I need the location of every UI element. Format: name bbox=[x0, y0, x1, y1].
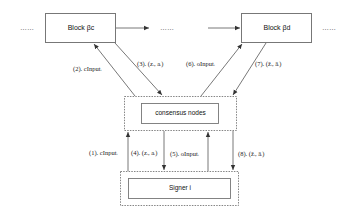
edge-2-label: (2). cInputᵢ bbox=[73, 66, 102, 73]
chain-ellipsis-right: …… bbox=[322, 24, 336, 31]
edge-3-label: (3). (zᵢ, aᵢ) bbox=[137, 61, 163, 68]
consensus-label: consensus nodes bbox=[142, 110, 219, 117]
signer-label: Signer i bbox=[129, 185, 231, 192]
edge-6-label: (6). oInputᵢ bbox=[186, 61, 215, 68]
edge-3-arrow bbox=[115, 43, 162, 95]
edge-8-label: (8). (ẑᵢ, âᵢ) bbox=[238, 151, 264, 158]
block-d-label: Block βd bbox=[242, 24, 312, 31]
edge-7-arrow bbox=[233, 43, 266, 95]
edge-7-label: (7). (ẑᵢ, âᵢ) bbox=[255, 61, 281, 68]
edge-6-arrow bbox=[201, 44, 242, 96]
edge-5-label: (5). oInputᵢ bbox=[170, 151, 199, 158]
chain-ellipsis-middle: …… bbox=[160, 24, 174, 31]
edge-4-label: (4). (zᵢ, aᵢ) bbox=[131, 150, 157, 157]
block-c-label: Block βc bbox=[46, 24, 116, 31]
diagram-canvas bbox=[0, 0, 354, 211]
chain-ellipsis-left: …… bbox=[20, 24, 34, 31]
edge-1-label: (1). cInputᵢ bbox=[89, 150, 118, 157]
